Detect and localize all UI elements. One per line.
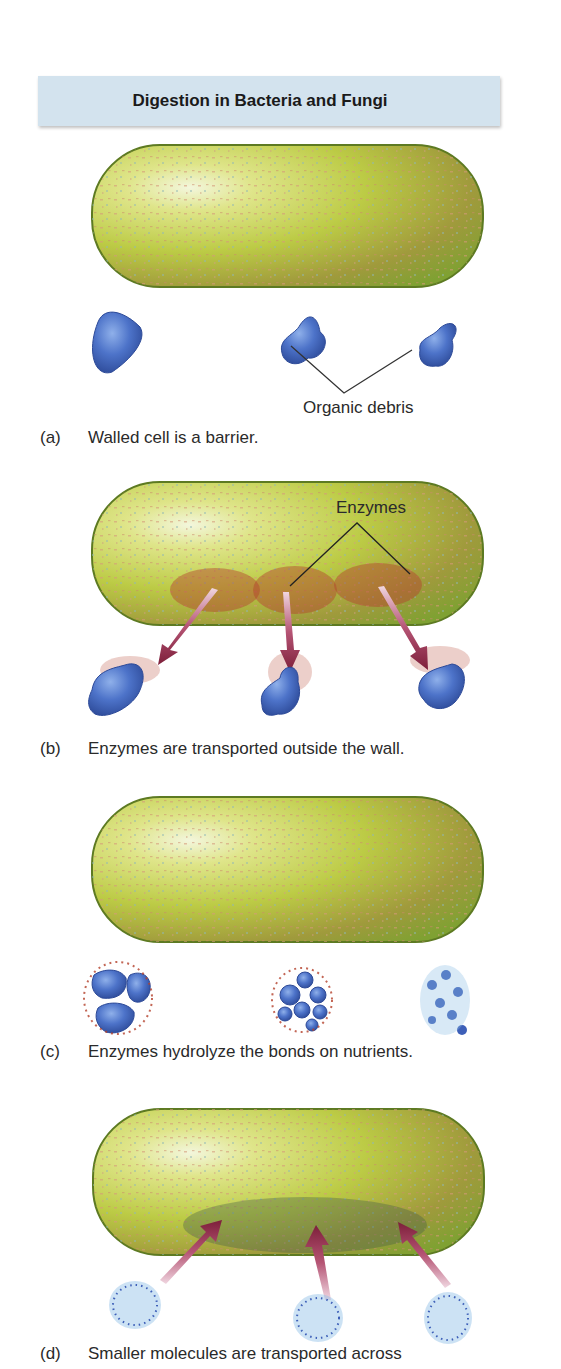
caption-a-text: Walled cell is a barrier.	[88, 428, 258, 447]
enzymes-label: Enzymes	[336, 498, 406, 518]
caption-d: (d)Smaller molecules are transported acr…	[40, 1344, 402, 1364]
caption-c-text: Enzymes hydrolyze the bonds on nutrients…	[88, 1042, 413, 1061]
panel-a-cell	[92, 145, 483, 287]
panel-d-small-molecules	[109, 1281, 472, 1344]
panel-c-nutrients	[84, 962, 470, 1035]
caption-a: (a)Walled cell is a barrier.	[40, 428, 258, 448]
diagram-canvas	[0, 0, 561, 1369]
caption-c-letter: (c)	[40, 1042, 88, 1062]
caption-b-letter: (b)	[40, 739, 88, 759]
caption-d-letter: (d)	[40, 1344, 88, 1364]
caption-a-letter: (a)	[40, 428, 88, 448]
caption-c: (c)Enzymes hydrolyze the bonds on nutrie…	[40, 1042, 413, 1062]
caption-d-text: Smaller molecules are transported across	[88, 1344, 402, 1363]
caption-b-text: Enzymes are transported outside the wall…	[88, 739, 405, 758]
panel-c-cell	[92, 797, 483, 942]
caption-b: (b)Enzymes are transported outside the w…	[40, 739, 405, 759]
panel-a-debris	[93, 312, 457, 393]
panel-d-cell	[93, 1109, 484, 1255]
organic-debris-label: Organic debris	[303, 398, 414, 418]
